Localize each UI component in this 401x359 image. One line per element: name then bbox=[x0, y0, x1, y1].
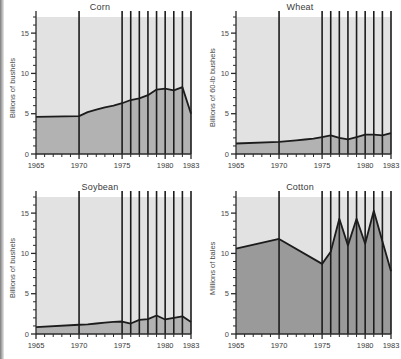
x-tick-label: 1965 bbox=[228, 341, 245, 350]
y-tick-label: 0 bbox=[225, 330, 229, 339]
x-tick-label: 1965 bbox=[28, 161, 45, 170]
x-tick-label: 1970 bbox=[71, 341, 88, 350]
plot-area-corn: 05101519651970197519801983 bbox=[0, 0, 200, 179]
x-tick-label: 1983 bbox=[383, 341, 400, 350]
chart-panel-corn: Corn Billions of bushels 051015196519701… bbox=[0, 0, 200, 179]
y-tick-label: 15 bbox=[221, 209, 229, 218]
x-tick-label: 1970 bbox=[71, 161, 88, 170]
x-tick-label: 1975 bbox=[314, 161, 331, 170]
y-tick-label: 0 bbox=[225, 150, 229, 159]
x-tick-label: 1980 bbox=[157, 161, 174, 170]
y-tick-label: 0 bbox=[25, 330, 29, 339]
x-tick-label: 1975 bbox=[114, 341, 131, 350]
x-tick-label: 1980 bbox=[357, 341, 374, 350]
y-tick-label: 5 bbox=[225, 289, 229, 298]
chart-panel-wheat: Wheat Billions of 60-lb bushels 05101519… bbox=[200, 0, 400, 179]
plot-background bbox=[36, 197, 191, 334]
plot-area-cotton: 05101519651970197519801983 bbox=[200, 180, 400, 359]
x-tick-label: 1965 bbox=[228, 161, 245, 170]
chart-panel-soybean: Soybean Billions of bushels 051015196519… bbox=[0, 180, 200, 359]
y-tick-label: 15 bbox=[21, 209, 29, 218]
x-tick-label: 1975 bbox=[314, 341, 331, 350]
y-tick-label: 15 bbox=[221, 29, 229, 38]
x-tick-label: 1970 bbox=[271, 161, 288, 170]
small-multiples-figure: Corn Billions of bushels 051015196519701… bbox=[0, 0, 401, 359]
x-tick-label: 1983 bbox=[183, 161, 200, 170]
y-tick-label: 5 bbox=[25, 289, 29, 298]
y-tick-label: 0 bbox=[25, 150, 29, 159]
y-tick-label: 5 bbox=[225, 109, 229, 118]
y-tick-label: 10 bbox=[21, 249, 29, 258]
plot-background bbox=[236, 17, 391, 154]
plot-area-soybean: 05101519651970197519801983 bbox=[0, 180, 200, 359]
x-tick-label: 1965 bbox=[28, 341, 45, 350]
x-tick-label: 1983 bbox=[183, 341, 200, 350]
y-tick-label: 10 bbox=[221, 249, 229, 258]
y-tick-label: 10 bbox=[21, 69, 29, 78]
plot-area-wheat: 05101519651970197519801983 bbox=[200, 0, 400, 179]
chart-panel-cotton: Cotton Millions of bales 051015196519701… bbox=[200, 180, 400, 359]
x-tick-label: 1970 bbox=[271, 341, 288, 350]
y-tick-label: 15 bbox=[21, 29, 29, 38]
x-tick-label: 1983 bbox=[383, 161, 400, 170]
x-tick-label: 1980 bbox=[157, 341, 174, 350]
x-tick-label: 1980 bbox=[357, 161, 374, 170]
x-tick-label: 1975 bbox=[114, 161, 131, 170]
y-tick-label: 10 bbox=[221, 69, 229, 78]
y-tick-label: 5 bbox=[25, 109, 29, 118]
